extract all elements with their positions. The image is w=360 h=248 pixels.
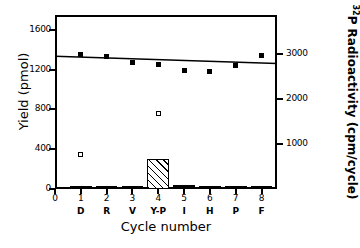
- bar-cycle-7: [225, 186, 247, 189]
- x-tick-label-3: 3: [122, 193, 142, 203]
- bar-cycle-8: [251, 186, 273, 189]
- data-point-background-cycle-4: [156, 111, 161, 116]
- data-point-radioactivity-cycle-2: [104, 54, 109, 59]
- bar-cycle-6: [199, 186, 221, 189]
- x-residue-label-R: R: [95, 206, 119, 216]
- y2-axis-title: 32P Radioactivity (cpm/cycle): [345, 5, 360, 195]
- y-tick-label-0: 0: [46, 183, 51, 193]
- x-tick-label-7: 7: [226, 193, 246, 203]
- x-tick-label-4: 4: [148, 193, 168, 203]
- data-point-radioactivity-cycle-3: [130, 60, 135, 65]
- y-axis-title: Yield (pmol): [16, 22, 31, 162]
- bar-cycle-3: [122, 186, 144, 189]
- x-tick-label-6: 6: [200, 193, 220, 203]
- y2-tick-label-3000: 3000: [286, 48, 308, 58]
- bar-cycle-4: [147, 159, 169, 189]
- data-point-background-cycle-1: [78, 152, 83, 157]
- y-tick-label-800: 800: [35, 103, 51, 113]
- bar-cycle-1: [70, 186, 92, 189]
- bar-cycle-2: [96, 186, 118, 189]
- x-residue-label-P: P: [224, 206, 248, 216]
- x-residue-label-I: I: [172, 206, 196, 216]
- y-tick-label-1200: 1200: [29, 64, 51, 74]
- data-point-radioactivity-cycle-8: [259, 53, 264, 58]
- x-axis-title: Cycle number: [55, 219, 277, 234]
- x-residue-label-F: F: [250, 206, 274, 216]
- x-residue-label-Y-P: Y-P: [146, 206, 170, 216]
- x-residue-label-D: D: [69, 206, 93, 216]
- y2-tick-3000: [277, 53, 283, 55]
- x-tick-label-0: 0: [45, 193, 65, 203]
- x-residue-label-V: V: [120, 206, 144, 216]
- x-tick-label-1: 1: [71, 193, 91, 203]
- y2-tick-label-1000: 1000: [286, 138, 308, 148]
- x-tick-label-8: 8: [252, 193, 272, 203]
- data-point-radioactivity-cycle-7: [233, 63, 238, 68]
- y-tick-label-400: 400: [35, 143, 51, 153]
- bar-cycle-5: [173, 185, 195, 189]
- data-point-radioactivity-cycle-4: [156, 62, 161, 67]
- x-tick-label-2: 2: [97, 193, 117, 203]
- y2-tick-1000: [277, 143, 283, 145]
- y-tick-label-1600: 1600: [29, 24, 51, 34]
- x-tick-label-5: 5: [174, 193, 194, 203]
- data-point-radioactivity-cycle-6: [207, 69, 212, 74]
- data-point-radioactivity-cycle-5: [182, 68, 187, 73]
- y2-tick-2000: [277, 98, 283, 100]
- data-point-radioactivity-cycle-1: [78, 52, 83, 57]
- superscript-32: 32: [351, 5, 360, 16]
- y2-tick-label-2000: 2000: [286, 93, 308, 103]
- x-residue-label-H: H: [198, 206, 222, 216]
